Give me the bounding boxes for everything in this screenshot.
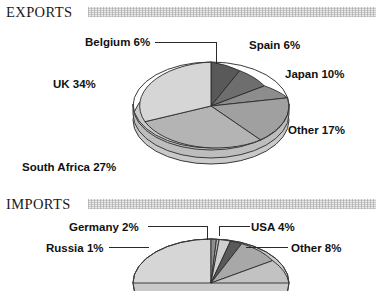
leader-line-usa-vertical — [219, 226, 220, 236]
leader-line-belgium-horizontal — [155, 42, 217, 43]
label-belgium: Belgium 6% — [85, 36, 150, 49]
exports-pie-svg — [131, 42, 295, 178]
section-header-imports: IMPORTS — [0, 194, 378, 214]
label-germany: Germany 2% — [69, 221, 139, 234]
label-spain: Spain 6% — [249, 39, 300, 52]
imports-pie-svg — [131, 231, 295, 291]
leader-line-usa-horizontal — [219, 226, 250, 227]
label-russia: Russia 1% — [46, 242, 104, 255]
label-uk: UK 34% — [53, 78, 96, 91]
label-japan: Japan 10% — [285, 68, 344, 81]
section-header-exports: EXPORTS — [0, 2, 378, 22]
imports-pie-chart — [131, 231, 295, 291]
imports-slices — [133, 239, 289, 283]
leader-line-belgium-vertical — [216, 42, 217, 64]
label-south-africa: South Africa 27% — [22, 161, 116, 174]
leader-line-russia-horizontal — [109, 247, 149, 248]
leader-line-germany-vertical — [207, 226, 208, 240]
slice-imports-remainder-left — [133, 239, 211, 283]
section-rule-imports — [88, 199, 376, 209]
section-title-exports: EXPORTS — [6, 2, 72, 22]
section-title-imports: IMPORTS — [6, 194, 71, 214]
exports-pie-chart — [131, 42, 295, 178]
label-usa: USA 4% — [251, 221, 295, 234]
label-other-imports: Other 8% — [291, 242, 342, 255]
leader-line-other-imports-horizontal — [246, 247, 288, 248]
label-other-exports: Other 17% — [288, 124, 345, 137]
section-rule-exports — [88, 7, 376, 17]
leader-line-germany-horizontal — [148, 226, 208, 227]
